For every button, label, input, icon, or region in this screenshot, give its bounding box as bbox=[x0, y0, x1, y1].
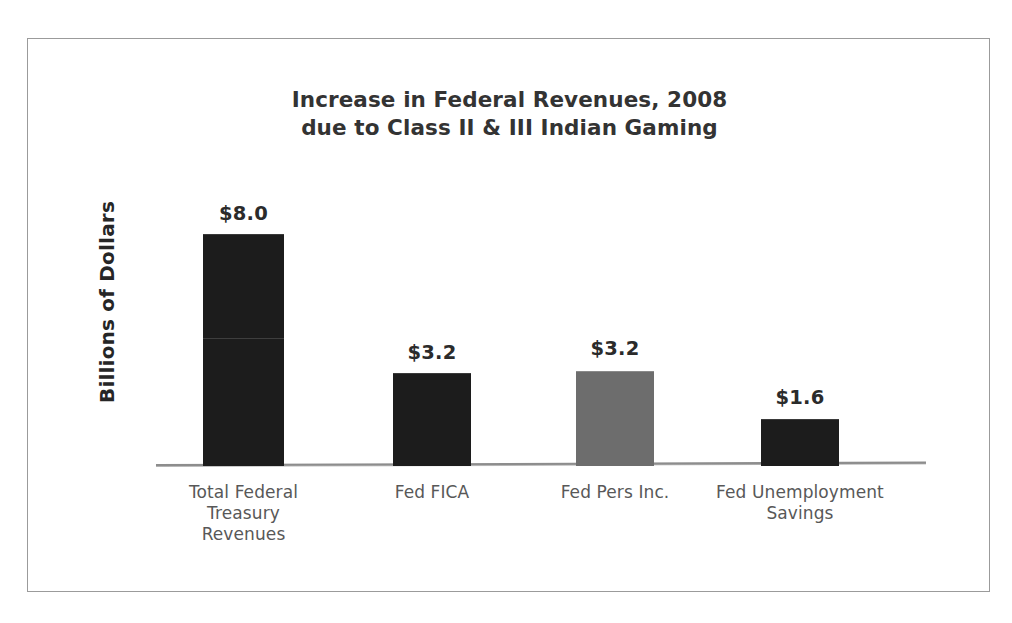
bar-group-fed-pers-inc[interactable]: $3.2 Fed Pers Inc. bbox=[576, 371, 654, 466]
bar-group-fed-unemployment-savings[interactable]: $1.6 Fed Unemployment Savings bbox=[761, 419, 839, 466]
bar-value-label: $1.6 bbox=[729, 386, 871, 409]
bar-rect[interactable] bbox=[203, 234, 284, 466]
bar-rect[interactable] bbox=[393, 373, 471, 466]
figure-frame: Increase in Federal Revenues, 2008 due t… bbox=[27, 38, 990, 592]
bar-category-label-line-1: Fed FICA bbox=[341, 482, 523, 503]
bar-value-label: $3.2 bbox=[361, 341, 503, 364]
bar-category-label-line-3: Revenues bbox=[151, 524, 336, 545]
bar-category-label: Fed FICA bbox=[341, 482, 523, 503]
bar-group-total-federal-treasury-revenues[interactable]: $8.0 Total Federal Treasury Revenues bbox=[203, 234, 284, 466]
bar-category-label: Total Federal Treasury Revenues bbox=[151, 482, 336, 545]
plot-area: $8.0 Total Federal Treasury Revenues $3.… bbox=[28, 39, 991, 593]
bar-rect[interactable] bbox=[576, 371, 654, 466]
bar-category-label: Fed Unemployment Savings bbox=[687, 482, 913, 524]
bar-category-label-line-2: Treasury bbox=[151, 503, 336, 524]
bar-category-label: Fed Pers Inc. bbox=[524, 482, 706, 503]
bar-rect[interactable] bbox=[761, 419, 839, 466]
bar-category-label-line-2: Savings bbox=[687, 503, 913, 524]
bar-category-label-line-1: Fed Pers Inc. bbox=[524, 482, 706, 503]
bar-category-label-line-1: Total Federal bbox=[151, 482, 336, 503]
bar-group-fed-fica[interactable]: $3.2 Fed FICA bbox=[393, 373, 471, 466]
bar-value-label: $8.0 bbox=[171, 202, 316, 225]
bar-value-label: $3.2 bbox=[544, 337, 686, 360]
bar-category-label-line-1: Fed Unemployment bbox=[687, 482, 913, 503]
